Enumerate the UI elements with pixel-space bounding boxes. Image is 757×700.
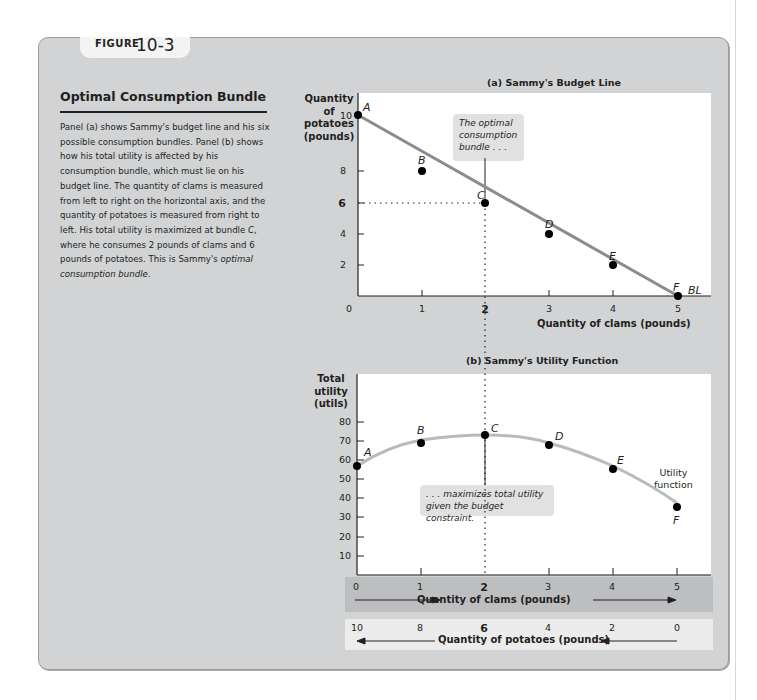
svg-text:0: 0 bbox=[346, 303, 352, 314]
svg-text:B: B bbox=[418, 154, 426, 167]
svg-text:80: 80 bbox=[339, 416, 351, 427]
svg-text:4: 4 bbox=[340, 228, 346, 239]
clams-axis-arrows bbox=[355, 597, 676, 603]
svg-text:30: 30 bbox=[339, 511, 351, 522]
svg-text:70: 70 bbox=[339, 435, 351, 446]
svg-text:E: E bbox=[609, 250, 616, 263]
svg-text:C: C bbox=[477, 189, 485, 202]
svg-text:8: 8 bbox=[340, 165, 346, 176]
panel-a-yticks: 2 4 6 8 10 bbox=[338, 110, 364, 270]
svg-text:C: C bbox=[491, 422, 499, 435]
potatoes-axis-arrows bbox=[357, 638, 677, 644]
chart-graphics: 2 4 6 8 10 0 1 2 3 4 5 AB CD EF BL 10 20… bbox=[0, 0, 757, 700]
svg-text:F: F bbox=[673, 281, 680, 294]
panel-a-point-labels: AB CD EF BL bbox=[362, 101, 702, 297]
panel-a-xticks: 0 1 2 3 4 5 bbox=[346, 290, 681, 316]
svg-text:10: 10 bbox=[351, 622, 363, 633]
svg-text:1: 1 bbox=[417, 581, 423, 592]
svg-text:5: 5 bbox=[675, 303, 681, 314]
svg-text:F: F bbox=[673, 514, 680, 527]
svg-text:4: 4 bbox=[545, 622, 551, 633]
svg-text:BL: BL bbox=[688, 284, 702, 297]
svg-text:60: 60 bbox=[339, 454, 351, 465]
svg-text:3: 3 bbox=[545, 581, 551, 592]
svg-text:40: 40 bbox=[339, 492, 351, 503]
svg-text:4: 4 bbox=[609, 581, 615, 592]
svg-text:2: 2 bbox=[609, 622, 615, 633]
svg-text:2: 2 bbox=[340, 259, 346, 270]
clams-axis-ticks: 0 1 2 3 4 5 bbox=[353, 581, 680, 594]
budget-line bbox=[358, 115, 678, 296]
svg-text:0: 0 bbox=[353, 581, 359, 592]
svg-text:6: 6 bbox=[338, 197, 346, 210]
svg-text:4: 4 bbox=[610, 303, 616, 314]
svg-text:1: 1 bbox=[419, 303, 425, 314]
svg-text:50: 50 bbox=[339, 473, 351, 484]
panel-b-xticks bbox=[421, 568, 677, 575]
svg-text:0: 0 bbox=[674, 622, 680, 633]
panel-b-yticks: 10 20 30 40 50 60 70 80 bbox=[339, 416, 364, 561]
svg-text:E: E bbox=[617, 454, 624, 467]
svg-text:A: A bbox=[363, 446, 372, 459]
svg-text:5: 5 bbox=[674, 581, 680, 592]
panel-b-points bbox=[353, 431, 681, 511]
svg-text:3: 3 bbox=[546, 303, 552, 314]
utility-curve bbox=[357, 435, 677, 503]
svg-text:10: 10 bbox=[340, 110, 352, 121]
svg-text:8: 8 bbox=[417, 622, 423, 633]
svg-text:2: 2 bbox=[480, 581, 488, 594]
svg-text:B: B bbox=[417, 424, 425, 437]
svg-text:D: D bbox=[545, 218, 553, 231]
potatoes-axis-ticks: 10 8 6 4 2 0 bbox=[351, 622, 680, 635]
svg-text:20: 20 bbox=[339, 531, 351, 542]
svg-text:D: D bbox=[555, 430, 563, 443]
svg-text:A: A bbox=[362, 101, 371, 114]
svg-text:10: 10 bbox=[339, 550, 351, 561]
svg-text:6: 6 bbox=[480, 622, 488, 635]
